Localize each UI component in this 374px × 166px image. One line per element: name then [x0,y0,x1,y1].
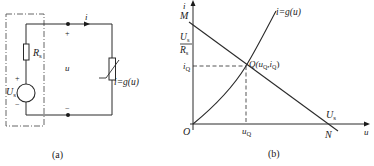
point-n-label: N [324,129,333,140]
terminal-minus-sign: − [65,104,70,113]
circuit-diagram: Rs + − Us + − u i i=g(u) (a) [6,12,139,161]
u-axis-arrow-icon [364,122,370,127]
terminal-bottom-node [66,113,70,117]
port-voltage-label: u [65,63,70,73]
curve-label: i=g(u) [276,7,301,18]
terminal-top-node [66,22,70,26]
voltage-source-icon [17,84,35,102]
point-m-label: M [179,10,189,21]
nonlinear-label: i=g(u) [114,77,139,88]
q-point-label: Q(uQ,iQ) [249,59,279,70]
uq-label: uQ [242,126,252,137]
thevenin-enclosure [6,14,44,126]
iq-label: iQ [183,61,191,72]
caption-a: (a) [52,149,63,161]
terminal-plus-sign: + [65,29,70,38]
load-line [189,22,338,131]
resistor-rs-icon [24,44,30,60]
source-minus-sign: − [15,100,20,109]
source-voltage-label: Us [6,86,16,99]
svg-text:Us: Us [180,32,190,43]
u-axis-label: u [364,127,369,137]
origin-label: O [183,126,190,137]
svg-text:Rs: Rs [179,45,189,56]
current-arrow-icon [84,22,90,27]
diagram-canvas: Rs + − Us + − u i i=g(u) (a) i u O M N [0,0,374,166]
i-axis-arrow-icon [191,0,196,6]
source-plus-sign: + [15,74,20,83]
us-over-rs-label: Us Rs [179,32,192,56]
caption-b: (b) [268,148,280,160]
load-line-graph: i u O M N Us Us Rs i=g(u) iQ uQ Q(uQ,iQ)… [179,0,370,160]
resistor-label: Rs [32,47,42,60]
us-x-intercept-label: Us [326,109,336,122]
current-label: i [85,12,88,22]
